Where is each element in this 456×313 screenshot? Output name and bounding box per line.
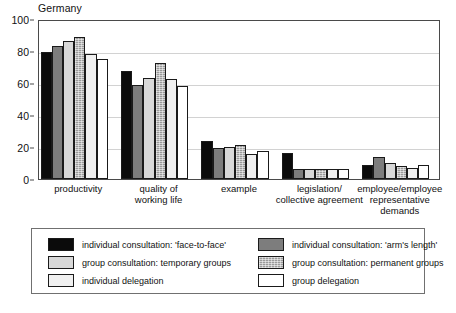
y-tick-mark: [30, 180, 34, 181]
bar: [224, 147, 235, 179]
legend: individual consultation: 'face-to-face'g…: [31, 228, 425, 294]
bar: [282, 153, 293, 179]
y-tick-mark: [30, 52, 34, 53]
y-tick-label: 60: [17, 79, 29, 89]
legend-column-right: individual consultation: 'arm's length'g…: [234, 236, 430, 290]
legend-item[interactable]: group consultation: permanent groups: [234, 254, 430, 271]
bar: [327, 169, 338, 179]
legend-swatch: [48, 238, 74, 251]
legend-label: individual consultation: 'face-to-face': [82, 240, 226, 250]
bar: [132, 85, 143, 179]
bar-group: [362, 21, 429, 179]
bar: [362, 165, 373, 179]
x-axis-label: employee/employeerepresentativedemands: [346, 183, 454, 216]
legend-swatch: [258, 274, 284, 287]
bar: [177, 86, 188, 179]
bar: [63, 41, 74, 179]
bar: [385, 163, 396, 179]
bar: [293, 169, 304, 179]
y-tick-mark: [30, 116, 34, 117]
bars-layer: [39, 21, 439, 179]
x-label-line: employee/employee: [346, 183, 454, 194]
legend-label: individual consultation: 'arm's length': [292, 240, 437, 250]
legend-item[interactable]: group consultation: temporary groups: [38, 254, 234, 271]
bar: [304, 169, 315, 179]
legend-item[interactable]: individual consultation: 'arm's length': [234, 236, 430, 253]
bar: [74, 37, 85, 179]
bar-group: [41, 21, 108, 179]
bar: [257, 151, 268, 179]
bar-group: [201, 21, 268, 179]
y-tick-label: 100: [11, 15, 29, 25]
y-axis: 020406080100: [0, 20, 34, 180]
bar: [97, 59, 108, 179]
legend-label: group consultation: permanent groups: [292, 258, 444, 268]
bar: [373, 157, 384, 179]
x-label-line: working life: [104, 194, 212, 205]
chart-title: Germany: [38, 2, 82, 14]
bar: [143, 78, 154, 179]
legend-item[interactable]: individual delegation: [38, 272, 234, 289]
y-tick-mark: [30, 84, 34, 85]
x-label-line: demands: [346, 205, 454, 216]
bar: [85, 54, 96, 179]
bar: [52, 46, 63, 179]
bar: [315, 169, 326, 179]
legend-swatch: [258, 238, 284, 251]
y-tick-mark: [30, 20, 34, 21]
plot-area: [38, 20, 440, 180]
bar: [396, 166, 407, 179]
legend-item[interactable]: group delegation: [234, 272, 430, 289]
legend-label: individual delegation: [82, 276, 164, 286]
bar-group: [282, 21, 349, 179]
bar: [213, 148, 224, 179]
bar-group: [121, 21, 188, 179]
y-tick-label: 20: [17, 143, 29, 153]
bar: [41, 52, 52, 179]
y-tick-label: 80: [17, 47, 29, 57]
y-tick-label: 40: [17, 111, 29, 121]
bar: [201, 141, 212, 179]
bar-chart-figure: Germany 020406080100 productivityquality…: [0, 0, 456, 313]
bar: [418, 165, 429, 179]
bar: [338, 169, 349, 179]
bar: [155, 63, 166, 179]
legend-column-left: individual consultation: 'face-to-face'g…: [38, 236, 234, 290]
legend-item[interactable]: individual consultation: 'face-to-face': [38, 236, 234, 253]
bar: [407, 168, 418, 179]
bar: [246, 154, 257, 179]
bar: [235, 145, 246, 179]
legend-label: group consultation: temporary groups: [82, 258, 231, 268]
x-axis-labels: productivityquality ofworking lifeexampl…: [38, 183, 440, 231]
legend-label: group delegation: [292, 276, 359, 286]
bar: [166, 79, 177, 179]
legend-swatch: [48, 274, 74, 287]
y-tick-mark: [30, 148, 34, 149]
bar: [121, 71, 132, 179]
legend-swatch: [258, 256, 284, 269]
legend-swatch: [48, 256, 74, 269]
x-label-line: representative: [346, 194, 454, 205]
